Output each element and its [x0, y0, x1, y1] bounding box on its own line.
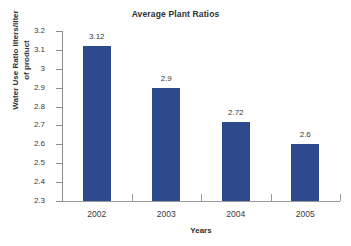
- y-axis-tick-label: 2.8: [5, 103, 45, 111]
- y-axis-tick: [56, 107, 62, 108]
- bar-2005[interactable]: [291, 144, 319, 201]
- y-axis-line: [62, 31, 63, 201]
- y-axis-tick-label: 2.3: [5, 197, 45, 205]
- x-axis-tick: [201, 194, 202, 201]
- y-axis-tick: [56, 163, 62, 164]
- x-axis-tick: [340, 194, 341, 201]
- y-axis-tick: [56, 69, 62, 70]
- bar-2003[interactable]: [152, 88, 180, 201]
- plot-area: 3.23.132.92.82.72.62.52.42.33.1220022.92…: [62, 31, 340, 201]
- y-axis-tick-label: 3.2: [5, 27, 45, 35]
- y-axis-tick: [56, 201, 62, 202]
- x-axis-tick: [132, 194, 133, 201]
- x-axis-category-label-2004: 2004: [208, 209, 264, 219]
- y-axis-tick: [56, 125, 62, 126]
- y-axis-title-line-1: Water Use Ratio liters/liter: [10, 10, 21, 109]
- y-axis-tick-label: 2.5: [5, 159, 45, 167]
- y-axis-tick-label: 2.6: [5, 140, 45, 148]
- x-axis-category-label-2002: 2002: [69, 209, 125, 219]
- x-axis-category-label-2005: 2005: [277, 209, 333, 219]
- x-axis-title: Years: [62, 226, 340, 235]
- y-axis-tick: [56, 88, 62, 89]
- x-axis-tick: [271, 194, 272, 201]
- y-axis-tick-label: 2.9: [5, 84, 45, 92]
- y-axis-tick: [56, 31, 62, 32]
- bar-value-label-2004: 2.72: [214, 109, 258, 117]
- bar-value-label-2003: 2.9: [144, 75, 188, 83]
- y-axis-tick-label: 3: [5, 65, 45, 73]
- y-axis-tick: [56, 50, 62, 51]
- x-axis-category-label-2003: 2003: [138, 209, 194, 219]
- y-axis-tick-label: 2.7: [5, 121, 45, 129]
- bar-value-label-2005: 2.6: [283, 131, 327, 139]
- y-axis-tick: [56, 182, 62, 183]
- chart-container: Average Plant Ratios Water Use Ratio lit…: [0, 0, 351, 246]
- bar-2004[interactable]: [222, 122, 250, 201]
- bar-value-label-2002: 3.12: [75, 33, 119, 41]
- bar-2002[interactable]: [83, 46, 111, 201]
- y-axis-tick-label: 3.1: [5, 46, 45, 54]
- x-axis-line: [58, 201, 340, 202]
- y-axis-tick-label: 2.4: [5, 178, 45, 186]
- y-axis-tick: [56, 144, 62, 145]
- chart-title: Average Plant Ratios: [0, 9, 351, 19]
